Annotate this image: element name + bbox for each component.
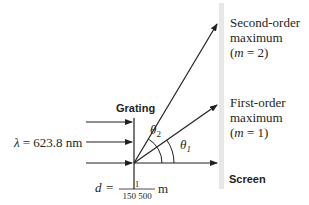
- second-order-label-line1: Second-order: [230, 15, 301, 30]
- diffraction-diagram: θ2 θ1 Grating λ= 623.8 nm d = 1 150 500 …: [0, 0, 309, 205]
- grating-label: Grating: [116, 102, 155, 114]
- d-unit: m: [158, 181, 168, 196]
- second-order-m-label: (m = 2): [230, 45, 268, 60]
- d-equals: =: [106, 180, 113, 195]
- theta1-arc: [167, 140, 174, 163]
- d-denominator: 150 500: [122, 191, 152, 201]
- theta2-label: θ2: [150, 122, 161, 139]
- screen-bar: [219, 3, 224, 189]
- second-order-ray-arrow: [134, 24, 217, 163]
- second-order-label-line2: maximum: [230, 30, 283, 45]
- first-order-label-line2: maximum: [230, 110, 283, 125]
- d-numerator: 1: [135, 179, 140, 189]
- screen-label: Screen: [229, 173, 266, 185]
- d-symbol: d: [95, 180, 102, 195]
- first-order-label-line1: First-order: [230, 95, 286, 110]
- first-order-m-label: (m = 1): [230, 125, 268, 140]
- wavelength-label: λ= 623.8 nm: [13, 135, 82, 150]
- theta1-label: θ1: [180, 137, 191, 154]
